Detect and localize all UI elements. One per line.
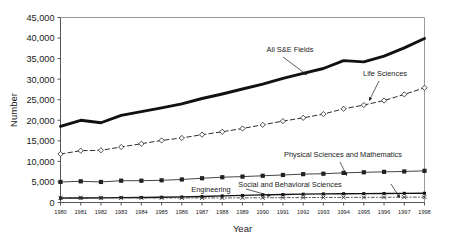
x-tick-label: 1984 bbox=[135, 209, 147, 215]
x-tick-label: 1997 bbox=[398, 209, 410, 215]
annotation-leader-line bbox=[370, 81, 379, 100]
series-marker bbox=[119, 144, 124, 149]
x-tick-label: 1993 bbox=[317, 209, 329, 215]
x-tick-label: 1987 bbox=[196, 209, 208, 215]
annotation-leader-line bbox=[391, 184, 399, 197]
series-marker bbox=[281, 193, 284, 196]
x-tick-label: 1989 bbox=[236, 209, 248, 215]
annotation-label: Engineering bbox=[191, 185, 230, 194]
series-marker bbox=[362, 170, 366, 174]
x-tick-label: 1982 bbox=[95, 209, 107, 215]
series-engineering bbox=[59, 192, 426, 200]
y-tick-label: 20,000 bbox=[26, 116, 54, 126]
y-tick-label: 5,000 bbox=[32, 177, 55, 187]
series-marker bbox=[79, 179, 83, 183]
series-marker bbox=[139, 141, 144, 146]
y-tick-label: 45,000 bbox=[26, 13, 54, 23]
series-marker bbox=[159, 138, 164, 143]
y-tick-label: 25,000 bbox=[26, 95, 54, 105]
series-marker bbox=[240, 175, 244, 179]
x-tick-label: 1980 bbox=[54, 209, 66, 215]
y-tick-label: 30,000 bbox=[26, 75, 54, 85]
y-axis-title: Number bbox=[8, 93, 19, 127]
annotation-label: Life Sciences bbox=[363, 69, 407, 78]
x-tick-label: 1988 bbox=[216, 209, 228, 215]
series-marker bbox=[383, 192, 386, 195]
series-marker bbox=[322, 192, 325, 195]
series-marker bbox=[422, 85, 427, 90]
series-marker bbox=[98, 148, 103, 153]
x-tick-labels: 1980198119821983198419851986198719881989… bbox=[54, 209, 430, 215]
series-marker bbox=[261, 174, 265, 178]
series-all-s-e-fields bbox=[61, 38, 425, 126]
y-tick-labels: 05,00010,00015,00020,00025,00030,00035,0… bbox=[26, 13, 54, 208]
series-marker bbox=[321, 112, 326, 117]
series-marker bbox=[402, 92, 407, 97]
series-annotations-layer: All S&E FieldsLife SciencesPhysical Scie… bbox=[191, 45, 407, 198]
annotation-life-sciences: Life Sciences bbox=[363, 69, 407, 101]
series-marker bbox=[362, 192, 365, 195]
series-marker bbox=[99, 180, 103, 184]
series-marker bbox=[302, 193, 305, 196]
y-tick-label: 10,000 bbox=[26, 157, 54, 167]
series-marker bbox=[361, 102, 366, 107]
series-marker bbox=[260, 122, 265, 127]
series-marker bbox=[342, 195, 346, 199]
y-tick-label: 35,000 bbox=[26, 54, 54, 64]
series-line bbox=[61, 38, 425, 126]
x-tick-label: 1983 bbox=[115, 209, 127, 215]
series-marker bbox=[402, 169, 406, 173]
series-marker bbox=[301, 172, 305, 176]
x-tick-label: 1986 bbox=[176, 209, 188, 215]
annotation-label: All S&E Fields bbox=[267, 45, 314, 54]
series-marker bbox=[240, 126, 245, 131]
annotation-label: Social and Behavioral Sciences bbox=[238, 180, 342, 189]
x-tick-label: 1996 bbox=[378, 209, 390, 215]
series-marker bbox=[220, 175, 224, 179]
series-marker bbox=[280, 119, 285, 124]
x-tick-label: 1981 bbox=[74, 209, 86, 215]
series-marker bbox=[381, 98, 386, 103]
x-tick-label: 1985 bbox=[155, 209, 167, 215]
series-marker bbox=[342, 192, 345, 195]
series-marker bbox=[160, 178, 164, 182]
series-marker bbox=[119, 179, 123, 183]
y-tick-label: 15,000 bbox=[26, 136, 54, 146]
x-tick-label: 1992 bbox=[297, 209, 309, 215]
series-marker bbox=[301, 115, 306, 120]
x-axis-title: Year bbox=[233, 223, 252, 234]
series-marker bbox=[139, 179, 143, 183]
series-marker bbox=[78, 148, 83, 153]
annotation-all-s-e-fields: All S&E Fields bbox=[267, 45, 314, 75]
y-tick-label: 0 bbox=[49, 198, 54, 208]
series-marker bbox=[58, 180, 62, 184]
annotation-label: Physical Sciences and Mathematics bbox=[284, 150, 402, 159]
x-tick-label: 1991 bbox=[277, 209, 289, 215]
data-series-layer bbox=[58, 38, 427, 200]
series-marker bbox=[220, 129, 225, 134]
series-marker bbox=[423, 192, 426, 195]
line-chart-svg: 05,00010,00015,00020,00025,00030,00035,0… bbox=[0, 0, 463, 248]
series-marker bbox=[321, 172, 325, 176]
annotation-leader-line bbox=[283, 57, 306, 74]
series-marker bbox=[180, 177, 184, 181]
x-tick-label: 1994 bbox=[337, 209, 349, 215]
series-marker bbox=[58, 151, 63, 156]
series-marker bbox=[403, 192, 406, 195]
chart-figure: 05,00010,00015,00020,00025,00030,00035,0… bbox=[0, 0, 463, 248]
series-marker bbox=[200, 176, 204, 180]
x-tick-label: 1995 bbox=[358, 209, 370, 215]
series-marker bbox=[422, 169, 426, 173]
x-tick-label: 1998 bbox=[418, 209, 430, 215]
series-marker bbox=[199, 132, 204, 137]
series-marker bbox=[341, 106, 346, 111]
series-marker bbox=[179, 135, 184, 140]
series-marker bbox=[382, 170, 386, 174]
y-tick-label: 40,000 bbox=[26, 33, 54, 43]
series-marker bbox=[281, 173, 285, 177]
x-tick-label: 1990 bbox=[256, 209, 268, 215]
